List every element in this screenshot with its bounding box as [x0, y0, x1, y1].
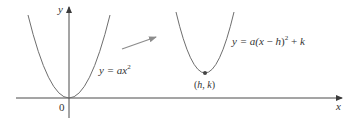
vertex-label: (h, k)	[194, 79, 215, 91]
origin-label: 0	[59, 101, 65, 113]
y-axis-label: y	[57, 3, 63, 15]
diagram-canvas: y x 0 y = ax2 y = a(x − h)2 + k (h, k)	[0, 0, 360, 118]
shifted-parabola-curve	[176, 12, 234, 73]
shifted-equation-label: y = a(x − h)2 + k	[231, 34, 306, 48]
translation-arrow-icon	[122, 37, 156, 49]
vertex-point	[203, 71, 207, 75]
parabola-translation-diagram: y x 0 y = ax2 y = a(x − h)2 + k (h, k)	[0, 0, 360, 118]
base-equation-label: y = ax2	[98, 63, 131, 76]
x-axis-label: x	[335, 100, 341, 112]
